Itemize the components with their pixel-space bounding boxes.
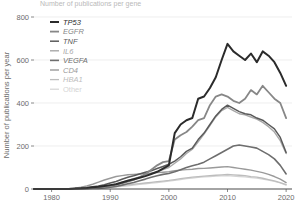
legend-label-tnf: TNF [63, 37, 78, 46]
series-line-other [34, 176, 286, 189]
x-tick-labels: 19801990200020102020 [43, 193, 294, 202]
y-axis-title: Number of publications per year [2, 51, 11, 158]
y-tick-label: 0 [25, 185, 29, 194]
legend-label-hba1: HBA1 [63, 75, 83, 84]
series-line-hba1 [34, 174, 286, 189]
legend-label-il6: IL6 [63, 47, 74, 56]
publications-per-gene-chart: Number of publications per gene 02004006… [0, 0, 298, 215]
x-tick-label: 2020 [278, 193, 295, 202]
series-line-egfr [34, 86, 286, 189]
y-tick-label: 600 [16, 56, 29, 65]
y-tick-label: 200 [16, 142, 29, 151]
y-tick-labels: 0200400600800 [16, 13, 29, 194]
chart-legend: TP53EGFRTNFIL6VEGFACD4HBA1Other [50, 18, 88, 94]
legend-label-vegfa: VEGFA [63, 56, 88, 65]
chart-canvas: Number of publications per gene 02004006… [0, 0, 298, 215]
y-tick-label: 400 [16, 99, 29, 108]
x-tick-label: 1990 [102, 193, 119, 202]
legend-label-egfr: EGFR [63, 27, 84, 36]
legend-label-tp53: TP53 [63, 18, 82, 27]
legend-label-cd4: CD4 [63, 66, 78, 75]
x-tick-label: 2000 [161, 193, 178, 202]
x-tick-label: 1980 [43, 193, 60, 202]
y-tick-label: 800 [16, 13, 29, 22]
chart-title: Number of publications per gene [40, 0, 141, 8]
legend-label-other: Other [63, 85, 82, 94]
x-tick-label: 2010 [219, 193, 236, 202]
